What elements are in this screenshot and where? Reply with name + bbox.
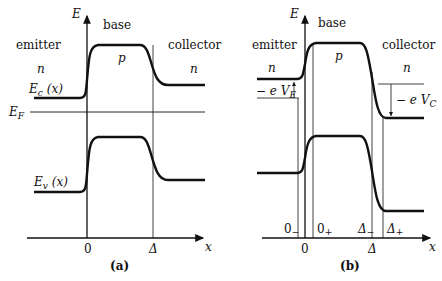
x-tick-delta: Δ: [148, 242, 158, 256]
valence-band-curve: [257, 136, 424, 211]
region-label-emitter: emitter: [252, 38, 297, 52]
conduction-band-label: Ec(x): [28, 82, 63, 98]
emitter-bias-label: − e VE: [256, 84, 296, 100]
position-axis-label: x: [429, 240, 436, 254]
region-label-emitter: emitter: [16, 38, 61, 52]
panel-b: − e VE − e VC E base emitter collector n…: [252, 7, 436, 273]
doping-label-collector: n: [190, 62, 198, 76]
valence-band-label: Ev(x): [33, 175, 68, 191]
doping-label-base: p: [335, 49, 343, 63]
band-diagram: E base emitter collector n p n Ec(x) EF …: [0, 0, 442, 281]
doping-label-emitter: n: [37, 62, 45, 76]
boundary-label-zero-minus: 0−: [284, 222, 299, 237]
collector-bias-label: − e VC: [396, 93, 436, 109]
fermi-level-label: EF: [8, 105, 25, 121]
panel-caption-b: (b): [340, 259, 360, 273]
region-label-collector: collector: [168, 38, 221, 52]
region-label-base: base: [318, 16, 346, 30]
region-label-base: base: [103, 18, 131, 32]
x-tick-zero: 0: [301, 242, 309, 256]
doping-label-collector: n: [403, 61, 411, 75]
energy-axis-label: E: [289, 7, 299, 21]
panel-a: E base emitter collector n p n Ec(x) EF …: [8, 7, 221, 273]
x-tick-zero: 0: [84, 242, 92, 256]
doping-label-emitter: n: [268, 61, 276, 75]
panel-caption-a: (a): [110, 259, 129, 273]
boundary-label-delta-plus: Δ+: [386, 222, 403, 237]
region-label-collector: collector: [382, 38, 435, 52]
boundary-label-zero-plus: 0+: [317, 222, 332, 237]
x-tick-delta: Δ: [367, 242, 377, 256]
position-axis-label: x: [205, 240, 212, 254]
energy-axis-label: E: [71, 7, 81, 21]
doping-label-base: p: [118, 51, 126, 65]
